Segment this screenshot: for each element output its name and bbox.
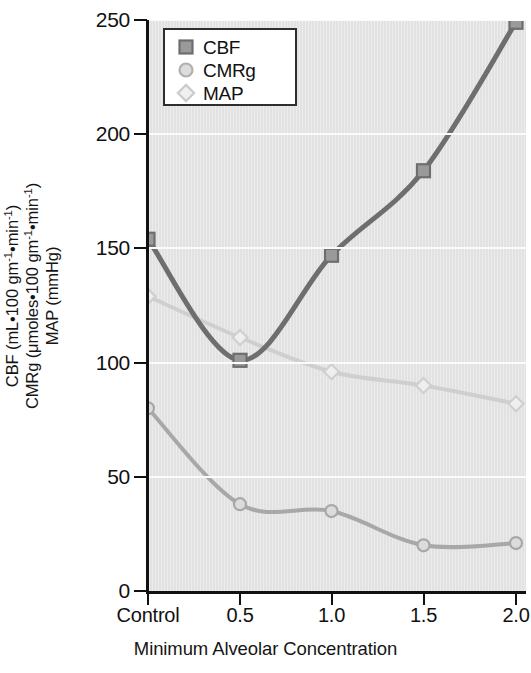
y-axis-tick-mark [134,362,147,364]
data-point-cbf-0.5 [234,354,247,367]
chart-legend: CBFCMRgMAP [163,28,297,106]
y-axis-title: CBF (mL•100 gm-1•min-1) CMRg (μmoles•100… [0,0,52,592]
legend-item-cmrg: CMRg [175,59,295,81]
y-axis-tick-mark [134,247,147,249]
y-axis-tick-label: 50 [78,466,130,487]
gridline [149,247,526,249]
legend-label: CBF [203,38,240,57]
x-axis-tick-label: Control [116,604,179,626]
y-axis-title-line-map: MAP (mmHg) [42,247,62,346]
data-point-map-1.5 [416,378,431,393]
y-axis-tick-mark [134,476,147,478]
data-point-map-0.5 [233,330,248,345]
data-point-cmrg-1.0 [326,505,338,517]
data-point-cmrg-Control [149,402,154,414]
y-axis-title-line-cbf: CBF (mL•100 gm-1•min-1) [2,205,22,387]
legend-label: MAP [203,84,243,103]
data-point-map-Control [149,289,156,304]
diamond-marker-icon [175,82,197,104]
y-axis-tick-label: 250 [78,9,130,30]
data-point-map-2.0 [509,396,524,411]
data-point-cbf-1.5 [417,164,430,177]
y-axis-tick-label: 0 [78,580,130,601]
legend-item-cbf: CBF [175,36,295,58]
y-axis-title-line-cmrg: CMRg (μmoles•100 gm-1•min-1) [22,183,42,409]
data-point-cmrg-1.5 [418,539,430,551]
y-axis-tick-label: 100 [78,352,130,373]
series-line-map [149,296,516,403]
y-axis-tick-labels: 050100150200250 [78,0,130,673]
legend-label: CMRg [203,61,256,80]
x-axis-line [146,591,526,594]
y-axis-tick-mark [134,590,147,592]
y-axis-tick-mark [134,19,147,21]
circle-marker-icon [175,59,197,81]
gridline [149,20,526,21]
data-point-cbf-1.0 [325,249,338,262]
x-axis-tick-label: 1.5 [410,604,437,626]
gridline [149,133,526,135]
data-point-cbf-2.0 [510,20,523,29]
x-axis-tick-label: 2.0 [502,604,529,626]
x-axis-tick-label: 1.0 [318,604,345,626]
data-point-cbf-Control [149,233,155,246]
y-axis-line [146,20,149,593]
y-axis-tick-mark [134,133,147,135]
chart-figure: CBF (mL•100 gm-1•min-1) CMRg (μmoles•100… [0,0,531,673]
data-point-cmrg-0.5 [234,498,246,510]
square-marker-icon [175,36,197,58]
y-axis-tick-label: 200 [78,123,130,144]
data-point-map-1.0 [324,364,339,379]
legend-item-map: MAP [175,82,295,104]
x-axis-tick-label: 0.5 [226,604,253,626]
gridline [149,362,526,364]
gridline [149,476,526,478]
y-axis-tick-label: 150 [78,237,130,258]
data-point-cmrg-2.0 [510,537,522,549]
x-axis-title: Minimum Alveolar Concentration [0,638,531,660]
